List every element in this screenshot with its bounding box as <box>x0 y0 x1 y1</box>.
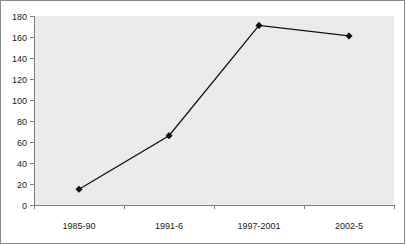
y-tick-label: 120 <box>12 75 27 85</box>
y-tick-label: 140 <box>12 54 27 64</box>
y-tick-label: 180 <box>12 12 27 22</box>
y-axis-ticks <box>30 17 34 206</box>
line-chart: 020406080100120140160180 1985-901991-619… <box>1 1 406 245</box>
y-tick-label: 60 <box>17 138 27 148</box>
y-tick-label: 160 <box>12 33 27 43</box>
x-tick-label: 1997-2001 <box>237 221 280 231</box>
chart-frame: 020406080100120140160180 1985-901991-619… <box>0 0 405 244</box>
y-axis-tick-labels: 020406080100120140160180 <box>12 12 27 211</box>
y-tick-label: 40 <box>17 159 27 169</box>
x-axis-tick-labels: 1985-901991-61997-20012002-5 <box>62 221 363 231</box>
x-tick-label: 1991-6 <box>155 221 183 231</box>
y-tick-label: 80 <box>17 117 27 127</box>
x-tick-label: 2002-5 <box>335 221 363 231</box>
y-tick-label: 20 <box>17 180 27 190</box>
plot-area-background <box>34 16 394 205</box>
y-tick-label: 0 <box>22 201 27 211</box>
y-tick-label: 100 <box>12 96 27 106</box>
x-tick-label: 1985-90 <box>62 221 95 231</box>
